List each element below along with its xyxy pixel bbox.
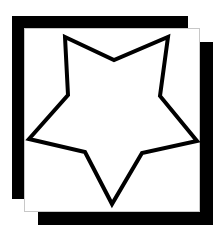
star-frame-graphic	[0, 0, 220, 235]
back-frame-top	[12, 16, 188, 28]
front-frame-right	[200, 42, 213, 225]
back-frame-left	[12, 16, 24, 199]
front-frame-bottom	[38, 212, 213, 225]
star-frame-svg	[0, 0, 220, 235]
